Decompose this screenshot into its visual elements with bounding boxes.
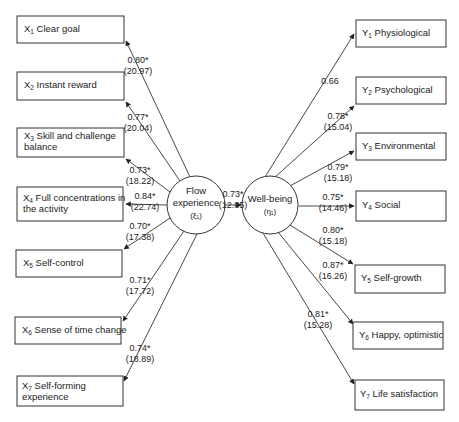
structural-t: (12.85)	[219, 200, 248, 210]
svg-text:Y4 Social: Y4 Social	[362, 199, 400, 211]
t-y7: (15.28)	[304, 320, 333, 330]
t-x1: (20.97)	[124, 66, 153, 76]
svg-text:the activity: the activity	[23, 203, 68, 214]
svg-text:X6 Sense of time change: X6 Sense of time change	[22, 324, 127, 336]
t-y2: (15.04)	[324, 122, 353, 132]
indicator-y2: Y2 Psychological	[356, 77, 446, 104]
indicator-x7: X7 Self-forming experience	[17, 376, 123, 406]
coef-y2: 0.78*	[327, 111, 349, 121]
t-x4: (22.74)	[131, 202, 160, 212]
indicator-x5: X5 Self-control	[16, 250, 122, 277]
wellbeing-label: Well-being	[248, 193, 293, 204]
indicator-x3: X3 Skill and challenge balance	[17, 128, 124, 157]
svg-text:X5 Self-control: X5 Self-control	[23, 257, 84, 269]
t-y3: (15.18)	[324, 173, 353, 183]
indicator-y5: Y5 Self-growth	[355, 265, 445, 293]
coef-x3: 0.73*	[129, 165, 151, 175]
coef-y3: 0.79*	[327, 162, 349, 172]
t-y5: (15.18)	[319, 236, 348, 246]
flow-label-2: experience	[173, 197, 219, 208]
svg-text:Y1 Physiological: Y1 Physiological	[362, 27, 430, 39]
indicator-y3: Y3 Environmental	[356, 133, 446, 160]
svg-text:Y6 Happy, optimistic: Y6 Happy, optimistic	[359, 329, 443, 341]
coef-y4: 0.75*	[322, 192, 344, 202]
indicator-y7: Y7 Life satisfaction	[355, 380, 444, 410]
coef-x2: 0.77*	[127, 112, 149, 122]
coef-y6: 0.87*	[322, 260, 344, 270]
coef-y7: 0.81*	[307, 309, 329, 319]
coef-x4: 0.84*	[134, 191, 156, 201]
indicator-x2: X2 Instant reward	[17, 72, 124, 100]
coef-x1: 0.80*	[127, 55, 149, 65]
svg-text:balance: balance	[24, 141, 57, 152]
coef-x6: 0.71*	[129, 275, 151, 285]
t-x2: (20.04)	[124, 123, 153, 133]
coef-y1: 0.66	[321, 76, 339, 86]
flow-label-1: Flow	[186, 185, 206, 196]
indicator-y1: Y1 Physiological	[356, 20, 446, 47]
t-x7: (18.89)	[126, 354, 155, 364]
indicator-y6: Y6 Happy, optimistic	[353, 322, 443, 349]
wellbeing-symbol: (η₁)	[264, 207, 277, 216]
sem-path-diagram: Flow experience (ξ₁) Well-being (η₁) 0.7…	[0, 0, 459, 422]
flow-symbol: (ξ₁)	[190, 211, 202, 220]
svg-text:experience: experience	[22, 391, 68, 402]
t-y6: (16.26)	[319, 271, 348, 281]
path-wb-y1	[265, 34, 354, 177]
structural-coef: 0.73*	[222, 189, 244, 199]
indicator-y4: Y4 Social	[356, 191, 446, 221]
t-x5: (17.38)	[126, 232, 155, 242]
indicator-x4: X4 Full concentrations in the activity	[17, 187, 125, 221]
latent-flow-experience: Flow experience (ξ₁)	[167, 176, 225, 234]
coef-y5: 0.80*	[322, 225, 344, 235]
t-x6: (17.72)	[126, 286, 155, 296]
indicator-x1: X1 Clear goal	[17, 16, 124, 43]
svg-text:Y5 Self-growth: Y5 Self-growth	[361, 272, 422, 284]
coef-x7: 0.74*	[129, 343, 151, 353]
indicator-x6: X6 Sense of time change	[15, 317, 127, 344]
coef-x5: 0.70*	[129, 221, 151, 231]
svg-text:Y7 Life satisfaction: Y7 Life satisfaction	[360, 388, 438, 400]
svg-text:X2 Instant reward: X2 Instant reward	[24, 79, 97, 91]
t-y4: (14.46)	[319, 203, 348, 213]
latent-well-being: Well-being (η₁)	[242, 176, 298, 234]
svg-text:Y3 Environmental: Y3 Environmental	[362, 140, 435, 152]
svg-text:Y2 Psychological: Y2 Psychological	[362, 84, 433, 96]
t-x3: (18.22)	[126, 176, 155, 186]
